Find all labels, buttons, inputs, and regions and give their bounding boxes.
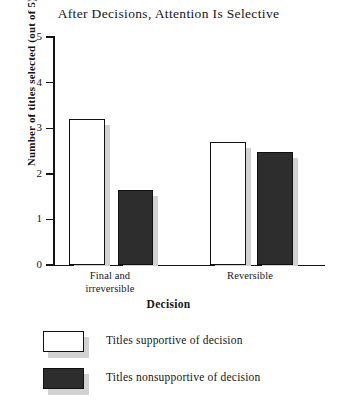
bar-body xyxy=(118,190,153,265)
y-tick-4: 4 xyxy=(46,82,53,83)
legend-swatch-body xyxy=(43,331,84,352)
y-tick-label-2: 2 xyxy=(37,168,43,179)
y-axis-label: Number of titles selected (out of 5) xyxy=(25,0,37,182)
y-tick-label-5: 5 xyxy=(37,31,43,42)
x-axis-label: Decision xyxy=(0,298,337,310)
y-tick-label-1: 1 xyxy=(37,214,43,225)
bar-body xyxy=(210,142,246,265)
plot-area xyxy=(53,37,325,265)
x-category-label-0: Final and irreversible xyxy=(60,270,160,295)
legend-swatch-supportive xyxy=(43,331,84,352)
y-tick-label-4: 4 xyxy=(37,77,43,88)
bar-final-nonsupportive xyxy=(118,190,153,265)
x-category-label-1-line-0: Reversible xyxy=(200,270,300,283)
y-tick-5: 5 xyxy=(46,36,53,37)
legend-label-supportive: Titles supportive of decision xyxy=(106,334,243,346)
legend-swatch-body xyxy=(43,368,84,389)
y-tick-3: 3 xyxy=(46,128,53,129)
y-tick-2: 2 xyxy=(46,173,53,174)
bar-body xyxy=(257,152,293,265)
x-category-label-1: Reversible xyxy=(200,270,300,283)
y-tick-label-3: 3 xyxy=(37,123,43,134)
x-category-label-0-line-1: irreversible xyxy=(60,283,160,296)
x-category-label-0-line-0: Final and xyxy=(60,270,160,283)
y-tick-0: 0 xyxy=(46,264,53,265)
y-tick-label-0: 0 xyxy=(37,259,43,270)
bar-chart-figure: After Decisions, Attention Is Selective … xyxy=(0,0,337,407)
legend-swatch-nonsupportive xyxy=(43,368,84,389)
bar-reversible-supportive xyxy=(210,142,246,265)
legend-label-nonsupportive: Titles nonsupportive of decision xyxy=(106,371,261,383)
bar-final-supportive xyxy=(69,119,105,265)
bar-body xyxy=(69,119,105,265)
chart-title: After Decisions, Attention Is Selective xyxy=(0,6,337,22)
y-tick-1: 1 xyxy=(46,219,53,220)
bar-reversible-nonsupportive xyxy=(257,152,293,265)
